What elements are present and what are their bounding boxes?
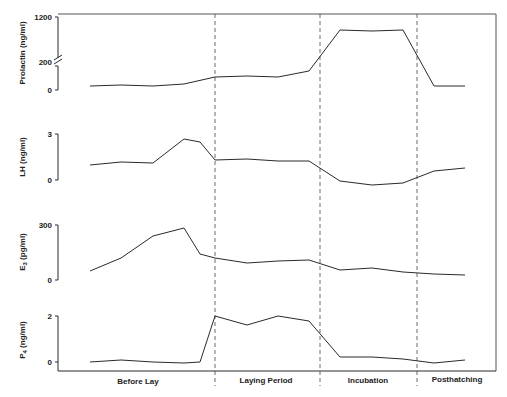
p4-tick-2: 2 bbox=[48, 312, 53, 321]
panel-lh: 3 0 LH (ng/ml) bbox=[18, 130, 465, 185]
prolactin-tick-0: 0 bbox=[48, 86, 53, 95]
panel-p4: 2 0 P4 (ng/ml) bbox=[18, 312, 465, 371]
period-label-laying: Laying Period bbox=[240, 376, 293, 385]
p4-curve bbox=[90, 316, 465, 363]
e3-tick-300: 300 bbox=[39, 221, 53, 230]
panel-prolactin: 1200 200 0 Prolactin (ng/ml) bbox=[18, 13, 465, 95]
period-label-posthatching: Posthatching bbox=[432, 375, 483, 384]
prolactin-curve bbox=[90, 30, 465, 86]
p4-axis-title: P4 (ng/ml) bbox=[18, 321, 28, 359]
hormone-profile-chart: 1200 200 0 Prolactin (ng/ml) 3 0 LH (ng/… bbox=[0, 0, 507, 397]
p4-tick-0: 0 bbox=[48, 358, 53, 367]
prolactin-tick-200: 200 bbox=[39, 58, 53, 67]
prolactin-axis-title: Prolactin (ng/ml) bbox=[18, 21, 27, 84]
period-label-before-lay: Before Lay bbox=[117, 377, 159, 386]
panel-e3: 300 0 E3 (pg/ml) bbox=[18, 221, 465, 285]
lh-curve bbox=[90, 139, 465, 185]
e3-axis-title: E3 (pg/ml) bbox=[18, 233, 28, 271]
lh-tick-3: 3 bbox=[48, 130, 53, 139]
lh-axis-title: LH (ng/ml) bbox=[18, 137, 27, 177]
e3-curve bbox=[90, 228, 465, 275]
period-label-incubation: Incubation bbox=[348, 376, 389, 385]
e3-tick-0: 0 bbox=[48, 276, 53, 285]
lh-tick-0: 0 bbox=[48, 176, 53, 185]
prolactin-tick-1200: 1200 bbox=[34, 13, 52, 22]
